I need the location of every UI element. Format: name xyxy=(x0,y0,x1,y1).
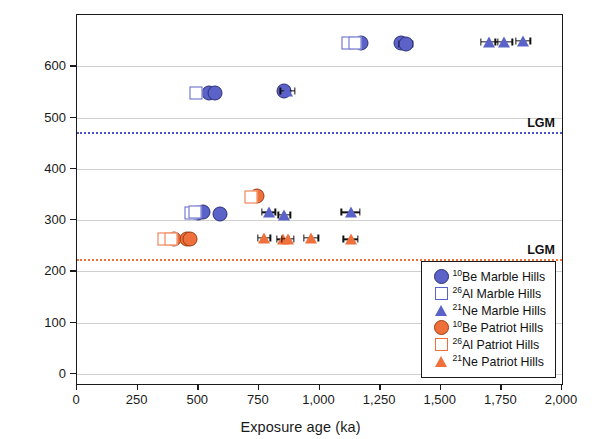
legend-marker xyxy=(430,338,452,351)
error-bar-cap xyxy=(294,87,295,94)
gridline xyxy=(77,220,562,221)
legend-label: 10Be Patriot Hills xyxy=(452,319,543,335)
y-tick-mark xyxy=(70,373,76,374)
legend-item: 10Be Patriot Hills xyxy=(430,319,546,336)
x-tick-label: 1,250 xyxy=(363,392,396,407)
y-tick-mark xyxy=(70,65,76,66)
legend-marker xyxy=(430,320,452,335)
x-tick-label: 1,750 xyxy=(484,392,517,407)
x-tick-mark xyxy=(561,384,562,390)
x-tick-label: 2,000 xyxy=(545,392,578,407)
data-point xyxy=(212,207,227,222)
y-tick-mark xyxy=(70,117,76,118)
y-tick-mark xyxy=(70,322,76,323)
legend-label: 21Ne Patriot Hills xyxy=(452,353,544,369)
legend-marker xyxy=(430,269,452,284)
error-bar-cap xyxy=(318,234,319,241)
x-tick-label: 0 xyxy=(72,392,79,407)
chart-figure: Elevation above ice margin (m) Exposure … xyxy=(0,0,601,439)
legend-label: 26Al Marble Hills xyxy=(452,285,541,301)
error-bar-cap xyxy=(359,209,360,216)
y-tick-label: 100 xyxy=(4,314,66,329)
data-point xyxy=(282,233,294,244)
data-point xyxy=(305,232,317,243)
legend-marker xyxy=(430,305,452,316)
legend-marker xyxy=(430,287,452,300)
x-tick-mark xyxy=(137,384,138,390)
y-tick-label: 200 xyxy=(4,263,66,278)
error-bar-cap xyxy=(275,209,276,216)
y-tick-label: 0 xyxy=(4,365,66,380)
x-tick-label: 1,500 xyxy=(423,392,456,407)
x-tick-mark xyxy=(76,384,77,390)
y-tick-label: 300 xyxy=(4,212,66,227)
x-tick-mark xyxy=(500,384,501,390)
error-bar-cap xyxy=(530,37,531,44)
legend-marker xyxy=(430,356,452,367)
y-tick-label: 400 xyxy=(4,160,66,175)
data-point xyxy=(190,86,203,99)
x-tick-label: 250 xyxy=(126,392,148,407)
gridline xyxy=(77,66,562,67)
plot-area: LGMLGM 10Be Marble Hills26Al Marble Hill… xyxy=(76,14,563,385)
data-point xyxy=(483,36,495,47)
legend-item: 26Al Patriot Hills xyxy=(430,336,546,353)
data-point xyxy=(278,209,290,220)
x-tick-mark xyxy=(258,384,259,390)
data-point xyxy=(165,233,178,246)
y-tick-label: 600 xyxy=(4,58,66,73)
y-tick-mark xyxy=(70,219,76,220)
y-tick-mark xyxy=(70,270,76,271)
x-tick-mark xyxy=(319,384,320,390)
data-point xyxy=(345,207,357,218)
y-tick-mark xyxy=(70,168,76,169)
data-point xyxy=(517,35,529,46)
data-point xyxy=(245,190,258,203)
error-bar-cap xyxy=(341,209,342,216)
lgm-marble-hills xyxy=(77,132,562,134)
data-point xyxy=(345,234,357,245)
data-point xyxy=(398,37,413,52)
error-bar-cap xyxy=(480,38,481,45)
x-tick-mark xyxy=(440,384,441,390)
data-point xyxy=(349,37,362,50)
lgm-marble-hills-label: LGM xyxy=(527,116,555,130)
x-tick-label: 1,000 xyxy=(302,392,335,407)
data-point xyxy=(258,232,270,243)
data-point xyxy=(189,205,202,218)
legend: 10Be Marble Hills26Al Marble Hills21Ne M… xyxy=(421,261,556,378)
legend-item: 21Ne Patriot Hills xyxy=(430,353,546,370)
gridline xyxy=(77,169,562,170)
data-point xyxy=(281,85,293,96)
lgm-patriot-hills-label: LGM xyxy=(527,243,555,257)
x-tick-label: 750 xyxy=(247,392,269,407)
legend-item: 21Ne Marble Hills xyxy=(430,302,546,319)
y-tick-label: 500 xyxy=(4,109,66,124)
legend-label: 21Ne Marble Hills xyxy=(452,302,546,318)
error-bar-cap xyxy=(512,38,513,45)
data-point xyxy=(498,36,510,47)
x-tick-mark xyxy=(197,384,198,390)
data-point xyxy=(183,232,198,247)
x-tick-mark xyxy=(379,384,380,390)
legend-label: 10Be Marble Hills xyxy=(452,268,545,284)
x-tick-label: 500 xyxy=(186,392,208,407)
error-bar-cap xyxy=(495,38,496,45)
error-bar-cap xyxy=(357,236,358,243)
legend-label: 26Al Patriot Hills xyxy=(452,336,539,352)
legend-item: 10Be Marble Hills xyxy=(430,268,546,285)
data-point xyxy=(207,85,222,100)
data-point xyxy=(263,207,275,218)
gridline xyxy=(77,118,562,119)
x-axis-title: Exposure age (ka) xyxy=(0,419,601,435)
legend-item: 26Al Marble Hills xyxy=(430,285,546,302)
